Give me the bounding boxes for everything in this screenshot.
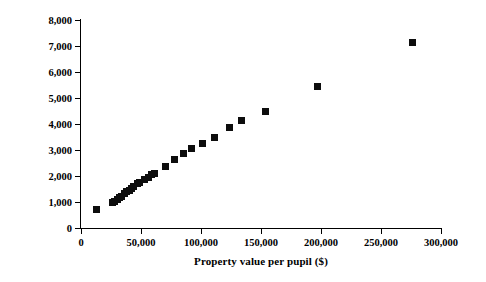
x-tick-label: 250,000 [364,237,398,248]
x-tick-label: 150,000 [244,237,278,248]
x-tick-mark [81,228,82,234]
scatter-chart-figure: Revenue per pupil ($) Property value per… [0,0,486,282]
x-tick-mark [321,228,322,234]
data-point [262,108,269,115]
data-point [211,134,218,141]
x-tick-mark [141,228,142,234]
x-tick-label: 50,000 [127,237,156,248]
y-tick-label: 2,000 [48,171,72,182]
data-point [188,145,195,152]
data-point [199,140,206,147]
data-point [171,156,178,163]
y-tick-label: 7,000 [48,41,72,52]
x-tick-mark [261,228,262,234]
x-tick-label: 0 [78,237,83,248]
x-tick-mark [381,228,382,234]
y-tick-mark [75,20,81,21]
y-tick-mark [75,98,81,99]
x-tick-label: 100,000 [184,237,218,248]
data-point [314,83,321,90]
y-tick-label: 3,000 [48,145,72,156]
x-tick-label: 300,000 [424,237,458,248]
y-tick-mark [75,202,81,203]
y-tick-mark [75,124,81,125]
data-point [93,206,100,213]
x-tick-label: 200,000 [304,237,338,248]
y-tick-label: 5,000 [48,93,72,104]
data-point [151,170,158,177]
y-tick-label: 0 [67,223,72,234]
y-tick-label: 1,000 [48,197,72,208]
x-tick-mark [441,228,442,234]
y-tick-label: 8,000 [48,15,72,26]
data-point [409,39,416,46]
y-tick-mark [75,46,81,47]
data-point [180,150,187,157]
x-axis-title: Property value per pupil ($) [81,255,441,267]
plot-area: 01,0002,0003,0004,0005,0006,0007,0008,00… [81,20,441,228]
x-tick-mark [201,228,202,234]
y-tick-mark [75,150,81,151]
y-tick-label: 6,000 [48,67,72,78]
data-point [238,117,245,124]
data-point [162,163,169,170]
y-tick-mark [75,72,81,73]
data-point [226,124,233,131]
y-tick-mark [75,176,81,177]
y-tick-label: 4,000 [48,119,72,130]
